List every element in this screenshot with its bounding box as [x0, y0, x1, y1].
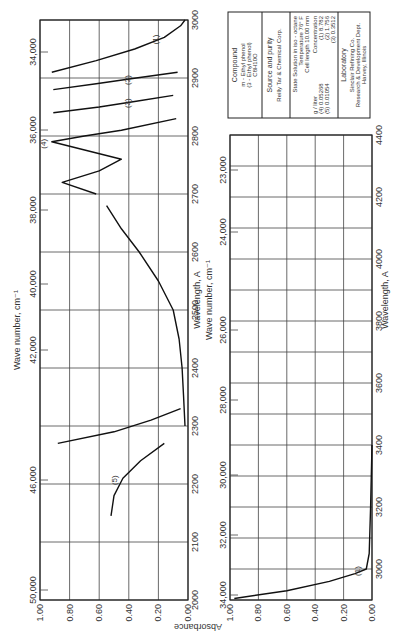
wavelength-axis-title: Wavelength, A [192, 271, 202, 329]
spectrum-curve [107, 206, 185, 426]
wavelength-tick-label: 2700 [190, 184, 200, 204]
lab-heading: Laboratory [340, 48, 348, 82]
spectrum-figure: 1.000.800.600.400.200.002000210022002300… [0, 0, 396, 640]
curve-label: (5) [110, 475, 119, 485]
wavelength-tick-label: 2300 [190, 416, 200, 436]
absorbance-tick-label: 0.80 [253, 604, 263, 622]
wavenumber-tick-label: 36,000 [28, 116, 38, 144]
wavenumber-tick-label: 34,000 [28, 38, 38, 66]
absorbance-tick-label: 0.40 [124, 604, 134, 622]
wavenumber-tick-label: 50,000 [28, 576, 38, 604]
cell-line: Cell length 10.00 mm [304, 16, 310, 73]
lab-line: Harvey, Illinois [361, 46, 367, 85]
curve-label: (1) [151, 34, 160, 44]
wavenumber-tick-label: 38,000 [28, 196, 38, 224]
wavelength-tick-label: 3400 [374, 435, 384, 455]
absorbance-tick-label: 1.00 [35, 604, 45, 622]
absorbance-axis-title: Absorbance [174, 622, 222, 632]
wavenumber-tick-label: 46,000 [28, 466, 38, 494]
source-heading: Source and purity [266, 37, 274, 92]
absorbance-tick-label: 0.20 [339, 604, 349, 622]
wavelength-tick-label: 3200 [374, 497, 384, 517]
concentration-value: (3) 0.3512 [330, 15, 336, 43]
absorbance-tick-label: 0.20 [153, 604, 163, 622]
absorbance-tick-label: 0.60 [282, 604, 292, 622]
wavenumber-axis-title: Wave number, cm⁻¹ [12, 290, 22, 370]
absorbance-tick-label: 0.40 [310, 604, 320, 622]
wavelength-tick-label: 2000 [190, 590, 200, 610]
absorbance-tick-label: 0.00 [367, 604, 377, 622]
compound-heading: Compound [231, 48, 239, 82]
chart-panel-1 [40, 20, 188, 600]
wavelength-tick-label: 2800 [190, 126, 200, 146]
source-line: Reilly Tar & Chemical Corp. [276, 28, 282, 102]
concentration-value: (5) 0.01054 [324, 83, 330, 114]
wavelength-tick-label: 3000 [190, 10, 200, 30]
curve-label: (3) [123, 98, 132, 108]
plot-frame [230, 135, 372, 600]
wavelength-tick-label: 2200 [190, 474, 200, 494]
wavelength-axis-title-2: Wavelength, A [380, 271, 390, 329]
wavelength-tick-label: 4400 [374, 125, 384, 145]
spectrum-curve [53, 72, 177, 89]
wavenumber-tick-label: 23,000 [218, 156, 228, 184]
spectrum-curve [234, 445, 372, 599]
wavelength-tick-label: 2100 [190, 532, 200, 552]
wavenumber-axis-title-2: Wave number, cm⁻¹ [204, 260, 214, 340]
absorbance-tick-label: 0.60 [94, 604, 104, 622]
wavelength-tick-label: 3600 [374, 373, 384, 393]
wavelength-tick-label: 2400 [190, 358, 200, 378]
wavelength-tick-label: 2900 [190, 68, 200, 88]
compound-line: C8H10O [252, 53, 258, 77]
curve-label: (4) [39, 139, 48, 149]
wavenumber-tick-label: 32,000 [218, 521, 228, 549]
spectrum-curve [52, 119, 176, 194]
spectrum-curve [52, 20, 185, 72]
wavelength-tick-label: 3000 [374, 559, 384, 579]
chart-panel-2 [230, 135, 372, 600]
absorbance-tick-label: 0.80 [65, 604, 75, 622]
wavenumber-tick-label: 30,000 [218, 461, 228, 489]
spectrum-curve [53, 95, 173, 112]
wavelength-tick-label: 4200 [374, 187, 384, 207]
wavenumber-tick-label: 40,000 [28, 270, 38, 298]
curve-label: (1) [353, 566, 362, 576]
curve-label: (2) [123, 75, 132, 85]
wavenumber-tick-label: 34,000 [218, 581, 228, 609]
wavenumber-tick-label: 26,000 [218, 316, 228, 344]
wavelength-tick-label: 2600 [190, 242, 200, 262]
spectrum-curve [111, 443, 164, 516]
wavenumber-tick-label: 28,000 [218, 386, 228, 414]
wavenumber-tick-label: 42,000 [28, 336, 38, 364]
wavelength-tick-label: 4000 [374, 249, 384, 269]
wavenumber-tick-label: 24,000 [218, 218, 228, 246]
